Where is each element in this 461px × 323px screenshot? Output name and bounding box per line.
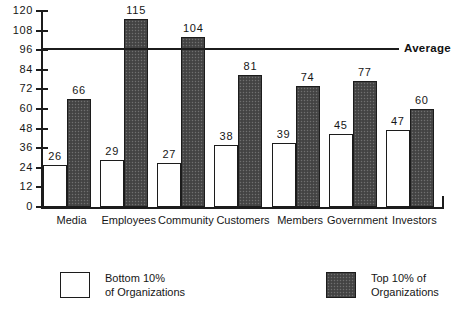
legend-label-bottom-line1: Bottom 10%	[105, 272, 165, 285]
legend-label-top-line1: Top 10% of	[371, 272, 426, 285]
y-axis-tick	[36, 147, 48, 149]
y-axis-tick	[36, 10, 48, 12]
bar-value-label: 81	[229, 61, 271, 72]
y-axis-tick	[36, 128, 48, 130]
bar-bottom-investors	[386, 130, 410, 207]
x-axis-tick	[237, 196, 239, 209]
x-axis-tick	[66, 196, 68, 209]
legend-swatch-top	[326, 272, 356, 298]
bar-bottom-government	[329, 134, 353, 208]
y-axis-tick	[36, 88, 48, 90]
x-axis-tick	[442, 196, 444, 209]
bar-value-label: 66	[58, 85, 100, 96]
bar-top-media	[67, 99, 91, 207]
average-line	[41, 48, 399, 51]
x-axis-tick	[180, 196, 182, 209]
bar-bottom-customers	[214, 145, 238, 207]
x-axis-tick	[409, 196, 411, 209]
bar-bottom-members	[272, 143, 296, 207]
x-axis-line	[41, 207, 443, 209]
bar-value-label: 104	[172, 23, 214, 34]
bar-value-label: 60	[401, 95, 443, 106]
plot-area: 01224364860728496108120 2666291152710438…	[0, 0, 461, 240]
x-axis-label-investors: Investors	[374, 214, 455, 227]
legend-swatch-bottom	[60, 272, 90, 298]
bar-top-members	[296, 86, 320, 207]
y-axis-tick-label: 0	[0, 201, 33, 212]
bar-bottom-community	[157, 163, 181, 207]
y-axis-tick-label: 96	[0, 44, 33, 55]
y-axis-tick	[36, 108, 48, 110]
bar-top-customers	[238, 75, 262, 207]
bar-value-label: 77	[344, 67, 386, 78]
legend-label-top-line2: Organizations	[371, 286, 439, 299]
bar-top-investors	[410, 109, 434, 207]
y-axis-tick-label: 60	[0, 103, 33, 114]
y-axis-tick-label: 72	[0, 83, 33, 94]
bar-top-government	[353, 81, 377, 207]
x-axis-tick	[295, 196, 297, 209]
y-axis-tick-label: 24	[0, 162, 33, 173]
y-axis-tick-label: 12	[0, 181, 33, 192]
y-axis-tick-label: 48	[0, 123, 33, 134]
chart-legend: Bottom 10% of Organizations Top 10% of O…	[0, 240, 461, 323]
y-axis-tick-label: 108	[0, 25, 33, 36]
legend-label-bottom-line2: of Organizations	[105, 286, 185, 299]
bar-value-label: 115	[115, 5, 157, 16]
y-axis-tick	[36, 69, 48, 71]
bar-value-label: 74	[287, 72, 329, 83]
y-axis-tick-label: 36	[0, 142, 33, 153]
x-axis-tick	[123, 196, 125, 209]
bar-chart: 01224364860728496108120 2666291152710438…	[0, 0, 461, 323]
y-axis-tick-label: 120	[0, 5, 33, 16]
x-axis-tick	[352, 196, 354, 209]
bar-top-community	[181, 37, 205, 207]
y-axis-tick-label: 84	[0, 64, 33, 75]
bar-bottom-media	[43, 165, 67, 207]
bar-bottom-employees	[100, 160, 124, 207]
y-axis-tick	[36, 30, 48, 32]
average-line-label: Average	[404, 42, 451, 54]
